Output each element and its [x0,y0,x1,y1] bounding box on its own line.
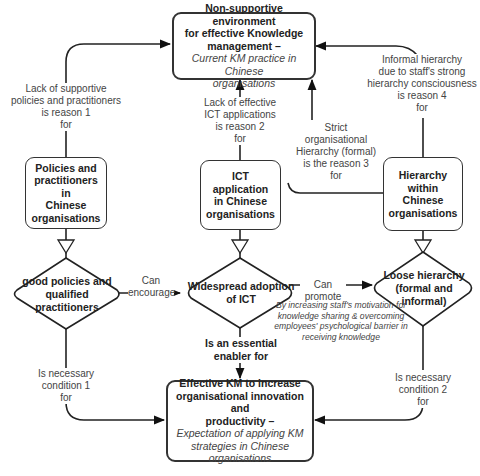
triangle-ict [232,240,248,253]
node-subtitle: Current KM practice in Chinese organisat… [178,52,310,90]
label-reason4: Informal hierarchy due to staff's strong… [365,54,479,114]
decision-good-policies: good policies and qualified practitioner… [14,274,120,314]
label-reason2: Lack of effective ICT applications is re… [200,97,280,145]
label-promote-note: By increasing staff's motivation for kno… [266,300,416,342]
node-effective-km: Effective KM to increase organisational … [166,380,314,462]
label-condition1: Is necessary condition 1 for [34,368,98,404]
node-hierarchy: Hierarchy within Chinese organisations [383,157,463,231]
label-essential-enabler: Is an essential enabler for [196,337,286,363]
node-policies-practitioners: Policies and practitioners in Chinese or… [25,157,107,229]
node-ict-application: ICT application in Chinese organisations [200,160,281,230]
node-title: Non-supportive environment for effective… [178,2,310,52]
label-can-encourage: Can encourage [128,275,174,299]
label-reason1: Lack of supportive policies and practiti… [10,83,122,131]
label-condition2: Is necessary condition 2 for [391,372,455,408]
node-nonsupportive-environment: Non-supportive environment for effective… [172,12,316,80]
triangle-policies [58,240,74,253]
label-reason3: Strict organisational Hierarchy (formal)… [292,122,380,182]
